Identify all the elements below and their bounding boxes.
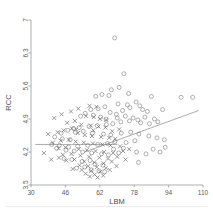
- data-point-circle: [163, 145, 167, 149]
- data-point-circle: [88, 158, 92, 162]
- data-point-cross: [98, 170, 102, 174]
- data-point-cross: [57, 156, 61, 160]
- data-point-circle: [149, 94, 153, 98]
- data-point-circle: [53, 135, 57, 139]
- data-point-circle: [100, 152, 104, 156]
- data-point-cross: [106, 157, 110, 161]
- data-point-cross: [49, 158, 53, 162]
- data-point-circle: [135, 150, 139, 154]
- data-point-circle: [112, 147, 116, 151]
- data-point-circle: [133, 139, 137, 143]
- data-point-circle: [86, 143, 90, 147]
- data-point-cross: [73, 119, 77, 123]
- figure-container: 3.54.24.95.66.373046627894110LBMRCC: [0, 0, 213, 220]
- data-point-cross: [61, 153, 65, 157]
- y-tick-label: 4.9: [22, 114, 29, 123]
- data-point-cross: [101, 174, 105, 178]
- data-point-circle: [81, 150, 85, 154]
- data-point-cross: [42, 151, 46, 155]
- data-point-circle: [158, 150, 162, 154]
- data-point-circle: [94, 94, 98, 98]
- scatter-plot: 3.54.24.95.66.373046627894110LBMRCC: [0, 0, 213, 220]
- data-point-circle: [122, 72, 126, 76]
- series-circle-group: [50, 36, 195, 174]
- data-point-circle: [124, 141, 128, 145]
- data-point-circle: [191, 95, 195, 99]
- data-point-circle: [117, 151, 121, 155]
- data-point-cross: [99, 135, 103, 139]
- y-tick-label: 5.6: [22, 81, 29, 90]
- data-point-cross: [83, 133, 87, 137]
- data-point-circle: [161, 108, 165, 112]
- data-point-cross: [111, 151, 115, 155]
- data-point-cross: [91, 128, 95, 132]
- data-point-circle: [107, 93, 111, 97]
- data-point-cross: [74, 140, 78, 144]
- data-point-circle: [121, 109, 125, 113]
- data-point-circle: [152, 117, 156, 121]
- data-point-cross: [91, 142, 95, 146]
- data-point-cross: [90, 134, 94, 138]
- x-tick-label: 94: [165, 189, 173, 196]
- data-point-cross: [104, 166, 108, 170]
- data-point-cross: [108, 168, 112, 172]
- y-axis-label: RCC: [4, 94, 13, 111]
- data-point-circle: [127, 119, 131, 123]
- data-point-circle: [134, 100, 138, 104]
- y-tick-label: 6.3: [22, 48, 29, 57]
- data-point-cross: [84, 114, 88, 118]
- data-point-cross: [84, 172, 88, 176]
- data-point-cross: [82, 159, 86, 163]
- data-point-cross: [79, 123, 83, 127]
- chart-svg: 3.54.24.95.66.373046627894110LBMRCC: [0, 0, 213, 220]
- data-point-cross: [62, 128, 66, 132]
- data-point-circle: [106, 153, 110, 157]
- data-point-circle: [155, 136, 159, 140]
- data-point-cross: [109, 143, 113, 147]
- data-point-cross: [97, 125, 101, 129]
- data-point-cross: [110, 129, 114, 133]
- data-point-cross: [124, 158, 128, 162]
- data-point-circle: [137, 160, 141, 164]
- data-point-circle: [137, 132, 141, 136]
- data-point-cross: [115, 164, 119, 168]
- y-tick-label: 7: [22, 18, 29, 22]
- data-point-circle: [100, 92, 104, 96]
- data-point-circle: [108, 110, 112, 114]
- data-point-circle: [90, 151, 94, 155]
- data-point-circle: [64, 148, 68, 152]
- data-point-circle: [114, 112, 118, 116]
- data-point-cross: [78, 163, 82, 167]
- data-point-cross: [87, 155, 91, 159]
- data-point-circle: [139, 121, 143, 125]
- data-point-cross: [71, 167, 75, 171]
- data-point-circle: [131, 116, 135, 120]
- data-point-cross: [74, 127, 78, 131]
- data-point-cross: [69, 152, 73, 156]
- data-point-cross: [94, 149, 98, 153]
- data-point-circle: [81, 129, 85, 133]
- y-tick-label: 4.2: [22, 147, 29, 156]
- data-point-cross: [87, 104, 91, 108]
- data-point-circle: [109, 88, 113, 92]
- data-point-cross: [110, 159, 114, 163]
- x-tick-label: 30: [27, 189, 35, 196]
- fit-line-rising-line: [85, 111, 199, 152]
- data-point-circle: [123, 114, 127, 118]
- footer-divider: [6, 206, 207, 207]
- data-point-circle: [103, 170, 107, 174]
- data-point-circle: [127, 92, 131, 96]
- data-point-circle: [66, 128, 70, 132]
- data-point-circle: [111, 122, 115, 126]
- data-point-cross: [76, 131, 80, 135]
- data-point-circle: [113, 36, 117, 40]
- data-point-circle: [80, 159, 84, 163]
- data-point-circle: [119, 131, 123, 135]
- data-point-circle: [151, 147, 155, 151]
- data-point-circle: [147, 134, 151, 138]
- data-point-cross: [78, 154, 82, 158]
- data-point-cross: [115, 155, 119, 159]
- x-tick-label: 62: [96, 189, 104, 196]
- data-point-circle: [115, 116, 119, 120]
- data-point-circle: [83, 111, 87, 115]
